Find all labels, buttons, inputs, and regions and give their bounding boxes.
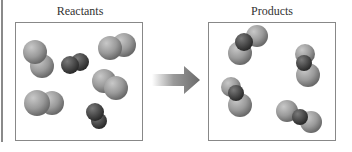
- reactant-molecule-light-4: [24, 90, 64, 116]
- reaction-arrow-icon: [152, 66, 200, 94]
- reactant-molecule-light-2: [98, 33, 136, 60]
- product-molecule-1: [228, 25, 268, 65]
- reactant-molecule-dark-2: [86, 103, 107, 129]
- molecule-diagram: [0, 0, 352, 152]
- reactant-molecule-light-3: [92, 69, 128, 100]
- product-molecule-4: [276, 100, 322, 133]
- reactant-molecule-dark-1: [61, 53, 89, 74]
- reactant-molecule-light-1: [23, 40, 54, 78]
- product-molecule-3: [221, 77, 252, 117]
- product-molecule-2: [295, 44, 320, 87]
